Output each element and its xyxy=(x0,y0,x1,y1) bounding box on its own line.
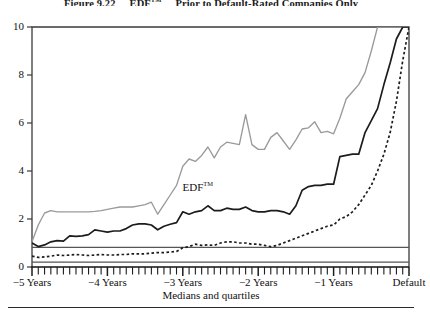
axis-caption-text: Medians and quartiles xyxy=(162,289,259,301)
edf-label-text: EDF xyxy=(183,180,204,192)
edf-series-annotation: EDFTM xyxy=(183,180,214,193)
y-tick-label: 10 xyxy=(2,21,24,32)
bottom-rule xyxy=(8,307,414,308)
series-3 xyxy=(32,27,409,257)
y-tick-label: 0 xyxy=(2,261,24,272)
y-tick-label: 8 xyxy=(2,69,24,80)
series-1 xyxy=(32,27,409,242)
edf-trademark: TM xyxy=(203,180,213,187)
axis-caption: Medians and quartiles xyxy=(0,289,422,301)
series-2 xyxy=(32,27,409,247)
y-tick-label: 2 xyxy=(2,213,24,224)
y-tick-label: 6 xyxy=(2,117,24,128)
x-tick-label: Default xyxy=(364,277,430,288)
series-group xyxy=(32,27,409,257)
y-tick-label: 4 xyxy=(2,165,24,176)
